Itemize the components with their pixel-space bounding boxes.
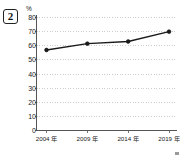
figure-container: 2 % 80706050403020100 2004 年2009 年2014 年… <box>0 0 180 156</box>
x-axis-tick-labels: 2004 年2009 年2014 年2019 年 <box>0 0 180 156</box>
page-corner-mark <box>175 152 179 155</box>
x-axis-tick-label: 2014 年 <box>117 136 138 142</box>
x-axis-tick-label: 2004 年 <box>36 136 57 142</box>
x-axis-tick-label: 2019 年 <box>158 136 179 142</box>
x-axis-tick-label: 2009 年 <box>77 136 98 142</box>
